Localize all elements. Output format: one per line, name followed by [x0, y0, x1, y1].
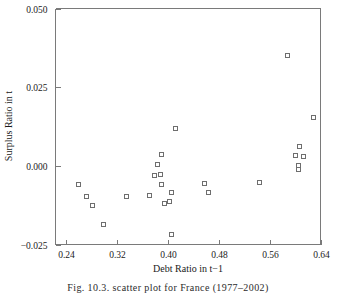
y-axis-ticks [56, 10, 61, 246]
scatter-point [168, 200, 172, 204]
figure-caption: Fig. 10.3. scatter plot for France (1977… [67, 282, 268, 293]
y-tick-label: 0.000 [26, 162, 48, 172]
scatter-point [91, 204, 95, 208]
scatter-point [102, 223, 106, 227]
scatter-plot: −0.0250.0000.0250.050 0.240.320.400.480.… [0, 0, 337, 293]
scatter-point [160, 183, 164, 187]
scatter-point [163, 202, 167, 206]
x-tick-label: 0.32 [109, 250, 126, 260]
y-axis-title: Surplus Ratio in t [3, 91, 14, 162]
plot-frame [56, 9, 321, 245]
x-tick-label: 0.56 [262, 250, 279, 260]
scatter-point [302, 155, 306, 159]
y-axis-tick-labels: −0.0250.0000.0250.050 [21, 5, 48, 251]
scatter-point [170, 191, 174, 195]
y-tick-label: 0.025 [26, 83, 48, 93]
scatter-point [170, 233, 174, 237]
scatter-point [258, 181, 262, 185]
y-tick-label: −0.025 [21, 241, 48, 251]
scatter-point [203, 182, 207, 186]
scatter-point [148, 194, 152, 198]
scatter-point [174, 127, 178, 131]
data-point-markers [77, 54, 316, 237]
scatter-point [77, 183, 81, 187]
x-axis-ticks [67, 240, 322, 245]
scatter-point [85, 195, 89, 199]
scatter-point [156, 163, 160, 167]
scatter-point [159, 173, 163, 177]
x-tick-label: 0.48 [211, 250, 228, 260]
scatter-point [160, 153, 164, 157]
x-tick-label: 0.40 [160, 250, 177, 260]
scatter-point [298, 145, 302, 149]
scatter-point [297, 168, 301, 172]
x-tick-label: 0.64 [313, 250, 330, 260]
scatter-point [153, 174, 157, 178]
y-tick-label: 0.050 [26, 5, 48, 15]
scatter-point [297, 164, 301, 168]
scatter-point [207, 191, 211, 195]
x-axis-title: Debt Ratio in t−1 [153, 263, 223, 274]
x-axis-tick-labels: 0.240.320.400.480.560.64 [58, 250, 330, 260]
x-tick-label: 0.24 [58, 250, 75, 260]
scatter-point [125, 195, 129, 199]
scatter-point [312, 116, 316, 120]
scatter-point [294, 154, 298, 158]
scatter-point [286, 54, 290, 58]
figure-container: −0.0250.0000.0250.050 0.240.320.400.480.… [0, 0, 337, 293]
